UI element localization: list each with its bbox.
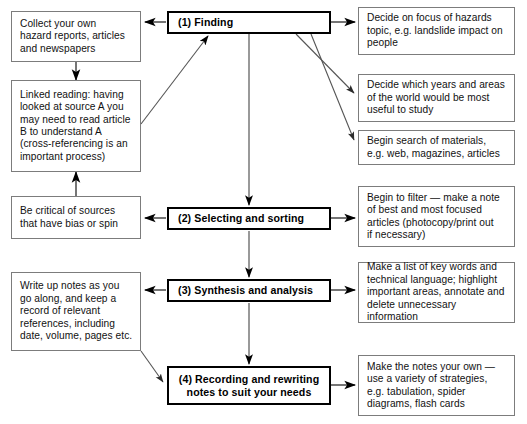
note-line: Begin to filter — make a note — [367, 192, 507, 204]
note-line: B to understand A — [20, 126, 133, 138]
stage-label: (4) Recording and rewriting — [175, 373, 323, 386]
stage-label: (3) Synthesis and analysis — [178, 284, 323, 297]
note-linked-reading[interactable]: Linked reading: having looked at source … — [11, 80, 141, 172]
note-line: useful to study — [367, 104, 507, 116]
note-line: Make the notes your own — — [367, 361, 507, 373]
note-line: if necessary) — [367, 229, 507, 241]
note-write-up-notes[interactable]: Write up notes as you go along, and keep… — [11, 272, 141, 351]
stage-box-1-finding[interactable]: (1) Finding — [167, 11, 331, 34]
stage-box-3-synthesis-and-analysis[interactable]: (3) Synthesis and analysis — [167, 279, 331, 302]
note-line: references, including — [20, 318, 133, 330]
note-line: Decide on focus of hazards — [367, 12, 507, 24]
note-line: (cross-referencing is an — [20, 138, 133, 150]
note-line: of best and most focused — [367, 204, 507, 216]
note-line: Begin search of materials, — [367, 135, 507, 147]
note-line: may need to read article — [20, 114, 133, 126]
note-line: people — [367, 37, 507, 49]
note-line: Make a list of key words and — [367, 261, 507, 273]
note-decide-years-areas[interactable]: Decide which years and areas of the worl… — [358, 74, 515, 122]
note-collect-own-reports[interactable]: Collect your own hazard reports, article… — [11, 11, 141, 62]
note-line: Be critical of sources — [20, 205, 133, 217]
note-line: use a variety of strategies, — [367, 373, 507, 385]
stage-box-2-selecting-and-sorting[interactable]: (2) Selecting and sorting — [167, 207, 331, 230]
stage-box-4-recording-and-rewriting[interactable]: (4) Recording and rewriting notes to sui… — [167, 366, 331, 405]
note-line: technical language; highlight — [367, 274, 507, 286]
note-line: Write up notes as you — [20, 280, 133, 292]
note-key-words-technical-language[interactable]: Make a list of key words and technical l… — [358, 262, 515, 323]
note-be-critical-of-sources[interactable]: Be critical of sources that have bias or… — [11, 196, 141, 239]
note-decide-focus[interactable]: Decide on focus of hazards topic, e.g. l… — [358, 7, 515, 55]
note-line: that have bias or spin — [20, 218, 133, 230]
note-make-notes-your-own[interactable]: Make the notes your own — use a variety … — [358, 355, 515, 416]
stage-label: notes to suit your needs — [175, 386, 323, 399]
note-line: important areas, annotate and — [367, 286, 507, 298]
stage-label: (1) Finding — [178, 16, 323, 29]
note-line: Linked reading: having — [20, 89, 133, 101]
note-line: Collect your own — [20, 18, 133, 30]
note-line: e.g. web, magazines, articles — [367, 148, 507, 160]
note-line: topic, e.g. landslide impact on — [367, 25, 507, 37]
note-line: record of relevant — [20, 305, 133, 317]
note-line: date, volume, pages etc. — [20, 330, 133, 342]
note-line: Decide which years and areas — [367, 79, 507, 91]
stage-label: (2) Selecting and sorting — [178, 212, 323, 225]
note-begin-search-materials[interactable]: Begin search of materials, e.g. web, mag… — [358, 130, 515, 165]
note-line: important process) — [20, 151, 133, 163]
note-line: hazard reports, articles — [20, 30, 133, 42]
diagram-caption — [0, 414, 527, 424]
note-line: articles (photocopy/print out — [367, 217, 507, 229]
note-begin-to-filter[interactable]: Begin to filter — make a note of best an… — [358, 186, 515, 247]
note-line: e.g. tabulation, spider — [367, 386, 507, 398]
note-line: looked at source A you — [20, 101, 133, 113]
note-line: and newspapers — [20, 43, 133, 55]
flowchart-diagram: Collect your own hazard reports, article… — [0, 0, 527, 424]
note-line: diagrams, flash cards — [367, 398, 507, 410]
note-line: delete unnecessary information — [367, 299, 507, 324]
note-line: go along, and keep a — [20, 293, 133, 305]
note-line: of the world would be most — [367, 92, 507, 104]
